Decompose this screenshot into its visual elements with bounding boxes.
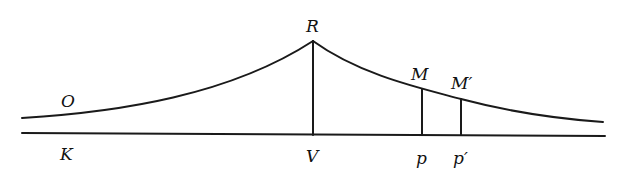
label-K: K [59, 144, 74, 164]
diagram-canvas: O K R V M M′ p p′ [0, 0, 618, 193]
label-p: p [416, 148, 427, 168]
label-V: V [306, 146, 320, 166]
label-R: R [305, 16, 319, 36]
label-p-prime: p′ [453, 148, 468, 168]
label-O: O [61, 91, 75, 111]
label-M-prime: M′ [450, 73, 472, 93]
label-M: M [410, 64, 429, 84]
